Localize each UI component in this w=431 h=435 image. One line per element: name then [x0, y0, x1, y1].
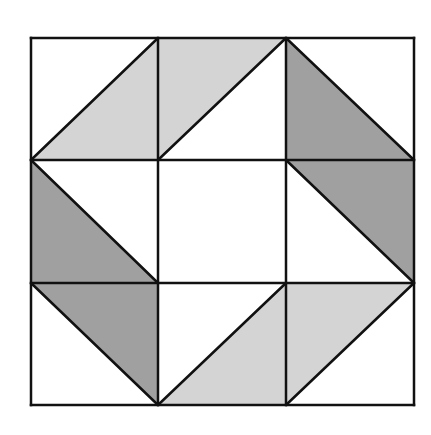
triangle-fills	[31, 38, 414, 405]
quilt-block-diagram	[0, 0, 431, 435]
